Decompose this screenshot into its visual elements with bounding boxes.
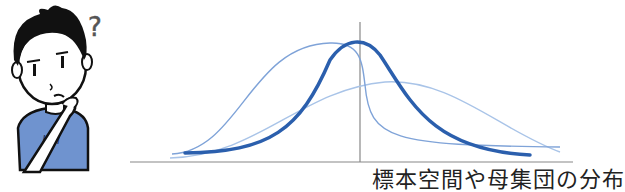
skewed-distribution-curve: [172, 43, 560, 154]
thinking-boy-illustration: ? Kei: [0, 0, 130, 182]
question-mark-icon: ?: [88, 12, 102, 42]
distribution-chart: [130, 0, 573, 182]
chart-caption: 標本空間や母集団の分布: [372, 168, 625, 192]
narrow-distribution-curve: [185, 42, 530, 155]
